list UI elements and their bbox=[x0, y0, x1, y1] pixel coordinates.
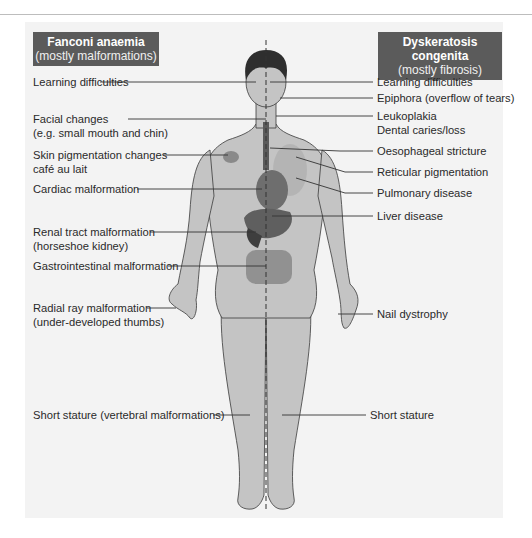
label-dc-liver-disease: Liver disease bbox=[377, 209, 443, 223]
label-dc-oesophageal-stricture: Oesophageal stricture bbox=[377, 144, 486, 158]
label-dc-nail-dystrophy: Nail dystrophy bbox=[377, 307, 448, 321]
heart bbox=[256, 170, 288, 210]
skin-pigmentation-patch bbox=[223, 151, 239, 163]
label-fa-cardiac-malformation: Cardiac malformation bbox=[33, 182, 139, 196]
label-dc-leukoplakia: LeukoplakiaDental caries/loss bbox=[377, 109, 465, 137]
label-fa-radial-ray: Radial ray malformation(under-developed … bbox=[33, 301, 164, 329]
intestines bbox=[246, 250, 292, 284]
label-fa-gastrointestinal: Gastrointestinal malformation bbox=[33, 259, 179, 273]
label-dc-pulmonary-disease: Pulmonary disease bbox=[377, 186, 472, 200]
label-fa-facial-changes: Facial changes(e.g. small mouth and chin… bbox=[33, 112, 168, 140]
label-dc-reticular-pigmentation: Reticular pigmentation bbox=[377, 165, 488, 179]
label-dc-learning-difficulties: Learning difficulties bbox=[377, 75, 473, 89]
label-dc-short-stature: Short stature bbox=[370, 408, 434, 422]
label-dc-epiphora: Epiphora (overflow of tears) bbox=[377, 91, 514, 105]
label-fa-short-stature: Short stature (vertebral malformations) bbox=[33, 408, 225, 422]
label-fa-learning-difficulties: Learning difficulties bbox=[33, 75, 129, 89]
label-fa-skin-pigmentation: Skin pigmentation changescafé au lait bbox=[33, 148, 167, 176]
label-fa-renal-tract: Renal tract malformation(horseshoe kidne… bbox=[33, 225, 155, 253]
